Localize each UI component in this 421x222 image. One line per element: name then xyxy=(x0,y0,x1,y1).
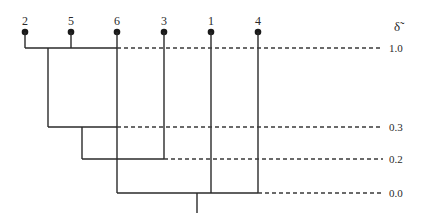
leaf-nodes xyxy=(22,29,262,36)
level-label-1-0: 1.0 xyxy=(389,42,403,54)
leaf-label-6: 6 xyxy=(114,14,120,28)
level-guides xyxy=(117,48,383,193)
leaf-labels: 2 5 6 3 1 4 xyxy=(22,14,261,28)
axis-symbol-delta-tilde: δ̃ xyxy=(394,19,405,34)
leaf-label-5: 5 xyxy=(68,14,74,28)
leaf-label-1: 1 xyxy=(208,14,214,28)
level-label-0-2: 0.2 xyxy=(389,153,403,165)
tree-branches xyxy=(25,32,258,213)
leaf-label-3: 3 xyxy=(161,14,167,28)
leaf-label-4: 4 xyxy=(255,14,261,28)
dendrogram: 2 5 6 3 1 4 xyxy=(0,0,421,222)
level-label-0-0: 0.0 xyxy=(389,187,403,199)
level-label-0-3: 0.3 xyxy=(389,121,403,133)
leaf-label-2: 2 xyxy=(22,14,28,28)
level-labels: 1.0 0.3 0.2 0.0 xyxy=(389,42,403,199)
